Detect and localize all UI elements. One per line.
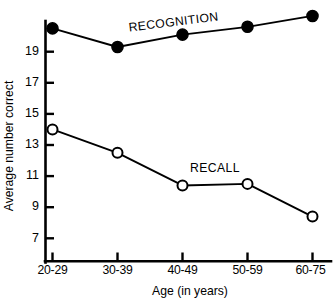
data-point-recognition [47, 23, 58, 34]
data-point-recognition [242, 21, 253, 32]
data-point-recognition [177, 29, 188, 40]
data-point-recall [48, 124, 58, 134]
y-tick-label-9: 9 [32, 199, 39, 213]
data-point-recall [113, 148, 123, 158]
y-tick-label-7: 7 [32, 231, 39, 245]
series-label-recall: RECALL [190, 161, 240, 175]
y-tick-label-17: 17 [25, 75, 39, 89]
y-tick-label-19: 19 [25, 44, 39, 58]
data-point-recall [178, 180, 188, 190]
x-tick-label-40-49: 40-49 [167, 263, 198, 277]
line-chart: 19 17 15 13 11 9 7 20-29 30-39 40-49 50-… [0, 0, 333, 306]
x-tick-label-60-75: 60-75 [295, 263, 326, 277]
x-axis-title: Age (in years) [152, 284, 228, 298]
plot-area: 19 17 15 13 11 9 7 20-29 30-39 40-49 50-… [0, 0, 333, 306]
x-tick-label-50-59: 50-59 [232, 263, 263, 277]
data-point-recall [308, 212, 318, 222]
y-tick-label-11: 11 [26, 168, 39, 182]
x-tick-label-20-29: 20-29 [37, 263, 68, 277]
series-label-recognition: RECOGNITION [128, 10, 219, 35]
data-point-recall [243, 179, 253, 189]
y-tick-label-13: 13 [25, 137, 39, 151]
series-recall [48, 124, 318, 221]
y-axis-title: Average number correct [2, 80, 16, 211]
data-point-recognition [307, 10, 318, 21]
y-tick-label-15: 15 [25, 106, 39, 120]
data-point-recognition [112, 41, 123, 52]
x-tick-label-30-39: 30-39 [102, 263, 133, 277]
